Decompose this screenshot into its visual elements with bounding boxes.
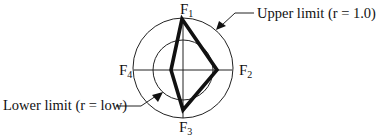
axis-label-f4: F4 xyxy=(119,63,132,79)
axis-subscript: 4 xyxy=(127,69,132,80)
axis-label-f1: F1 xyxy=(180,2,193,18)
axis-subscript: 2 xyxy=(247,69,252,80)
axis-subscript: 1 xyxy=(188,8,193,19)
profile-polygon xyxy=(171,19,217,110)
upper-limit-leader xyxy=(222,13,254,25)
axis-subscript: 3 xyxy=(187,126,192,137)
lower-limit-label: Lower limit (r = low) xyxy=(3,98,127,113)
axis-label-f2: F2 xyxy=(239,63,252,79)
axis-label-f3: F3 xyxy=(179,120,192,136)
upper-limit-label: Upper limit (r = 1.0) xyxy=(257,6,376,21)
